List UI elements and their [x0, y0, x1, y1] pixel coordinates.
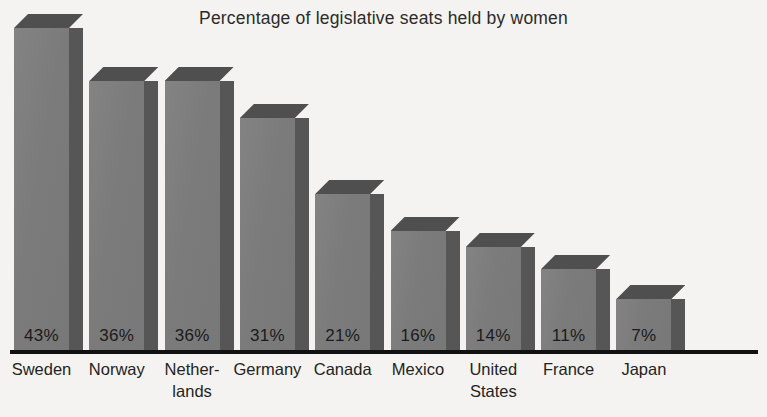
bar-front-face: 31% [240, 118, 295, 352]
bar-top-face [616, 285, 685, 299]
bar-front-face: 21% [315, 194, 370, 352]
x-axis-line [10, 350, 758, 354]
bar-sweden: 43% [14, 28, 69, 352]
category-label-france: France [531, 358, 606, 380]
bar-front-face: 7% [616, 299, 671, 352]
bar-value-label: 16% [391, 326, 446, 346]
bar-side-face [596, 269, 610, 352]
bar-side-face [220, 81, 234, 352]
category-label-canada: Canada [305, 358, 380, 380]
category-label-norway: Norway [79, 358, 154, 380]
category-label-japan: Japan [606, 358, 681, 380]
bar-value-label: 11% [541, 326, 596, 346]
bar-united-states: 14% [466, 247, 521, 352]
bar-side-face [671, 299, 685, 352]
bar-top-face [89, 67, 158, 81]
bar-germany: 31% [240, 118, 295, 352]
bar-value-label: 31% [240, 326, 295, 346]
bar-front-face: 16% [391, 231, 446, 352]
bar-chart: Percentage of legislative seats held by … [0, 0, 767, 417]
bar-front-face: 43% [14, 28, 69, 352]
bar-front-face: 36% [165, 81, 220, 352]
bar-value-label: 21% [315, 326, 370, 346]
bar-value-label: 36% [165, 326, 220, 346]
category-label-mexico: Mexico [381, 358, 456, 380]
bar-front-face: 11% [541, 269, 596, 352]
x-axis-category-labels: SwedenNorwayNether- landsGermanyCanadaMe… [0, 358, 767, 417]
category-label-united-states: United States [456, 358, 531, 402]
bar-canada: 21% [315, 194, 370, 352]
bar-value-label: 43% [14, 326, 69, 346]
bar-value-label: 7% [616, 326, 671, 346]
bar-front-face: 36% [89, 81, 144, 352]
bar-norway: 36% [89, 81, 144, 352]
category-label-netherlands: Nether- lands [155, 358, 230, 402]
bar-top-face [240, 104, 309, 118]
bar-side-face [295, 118, 309, 352]
bar-value-label: 36% [89, 326, 144, 346]
bar-top-face [315, 180, 384, 194]
category-label-sweden: Sweden [4, 358, 79, 380]
bar-side-face [446, 231, 460, 352]
bar-top-face [391, 217, 460, 231]
bar-top-face [165, 67, 234, 81]
bar-top-face [466, 233, 535, 247]
bar-top-face [541, 255, 610, 269]
bar-side-face [370, 194, 384, 352]
plot-area: 43%36%36%31%21%16%14%11%7% [0, 0, 767, 352]
bar-mexico: 16% [391, 231, 446, 352]
bar-front-face: 14% [466, 247, 521, 352]
category-label-germany: Germany [230, 358, 305, 380]
bar-top-face [14, 14, 83, 28]
bar-side-face [521, 247, 535, 352]
bar-side-face [144, 81, 158, 352]
bar-value-label: 14% [466, 326, 521, 346]
bar-france: 11% [541, 269, 596, 352]
bar-netherlands: 36% [165, 81, 220, 352]
bar-japan: 7% [616, 299, 671, 352]
bar-side-face [69, 28, 83, 352]
